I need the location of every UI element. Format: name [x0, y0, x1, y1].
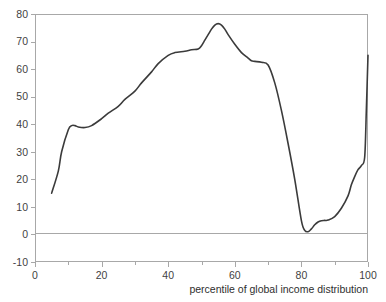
- y-tick-label-group: -1001020304050607080: [13, 8, 28, 268]
- y-tick-label: -10: [13, 256, 28, 268]
- x-tick-label-group: 020406080100: [32, 269, 377, 281]
- x-tick-label: 20: [96, 269, 108, 281]
- chart-container: -1001020304050607080 020406080100 percen…: [0, 0, 386, 302]
- y-tick-group: [31, 15, 35, 263]
- y-tick-label: 10: [16, 201, 28, 213]
- x-axis-title: percentile of global income distribution: [189, 283, 368, 295]
- x-tick-label: 40: [162, 269, 174, 281]
- x-tick-label: 80: [296, 269, 308, 281]
- y-tick-label: 0: [22, 228, 28, 240]
- y-tick-label: 60: [16, 63, 28, 75]
- y-tick-label: 50: [16, 90, 28, 102]
- x-tick-label: 100: [359, 269, 377, 281]
- x-tick-group: [36, 262, 369, 267]
- x-tick-label: 0: [32, 269, 38, 281]
- y-tick-label: 30: [16, 146, 28, 158]
- x-tick-label: 60: [229, 269, 241, 281]
- y-tick-label: 70: [16, 35, 28, 47]
- y-tick-label: 80: [16, 8, 28, 20]
- elephant-curve-chart: -1001020304050607080 020406080100 percen…: [0, 0, 386, 302]
- y-tick-label: 40: [16, 118, 28, 130]
- y-tick-label: 20: [16, 173, 28, 185]
- income-growth-line: [52, 24, 368, 232]
